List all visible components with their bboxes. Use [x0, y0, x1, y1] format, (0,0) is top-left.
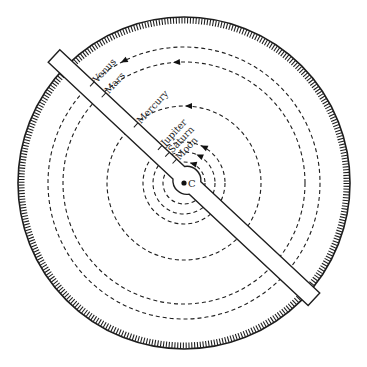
- astronomical-dial-diagram: VenusMarsMercuryJupiterSaturnMoon C: [0, 0, 367, 367]
- arrowhead-icon: [201, 146, 209, 152]
- planet-label-mercury: Mercury: [134, 88, 171, 126]
- arrowhead-icon: [196, 155, 204, 161]
- center-label: C: [188, 178, 196, 189]
- diagram-canvas: VenusMarsMercuryJupiterSaturnMoon C: [0, 0, 367, 367]
- ruler-outline[interactable]: [44, 46, 323, 310]
- arrowhead-icon: [185, 103, 192, 109]
- center-dot: [181, 180, 186, 185]
